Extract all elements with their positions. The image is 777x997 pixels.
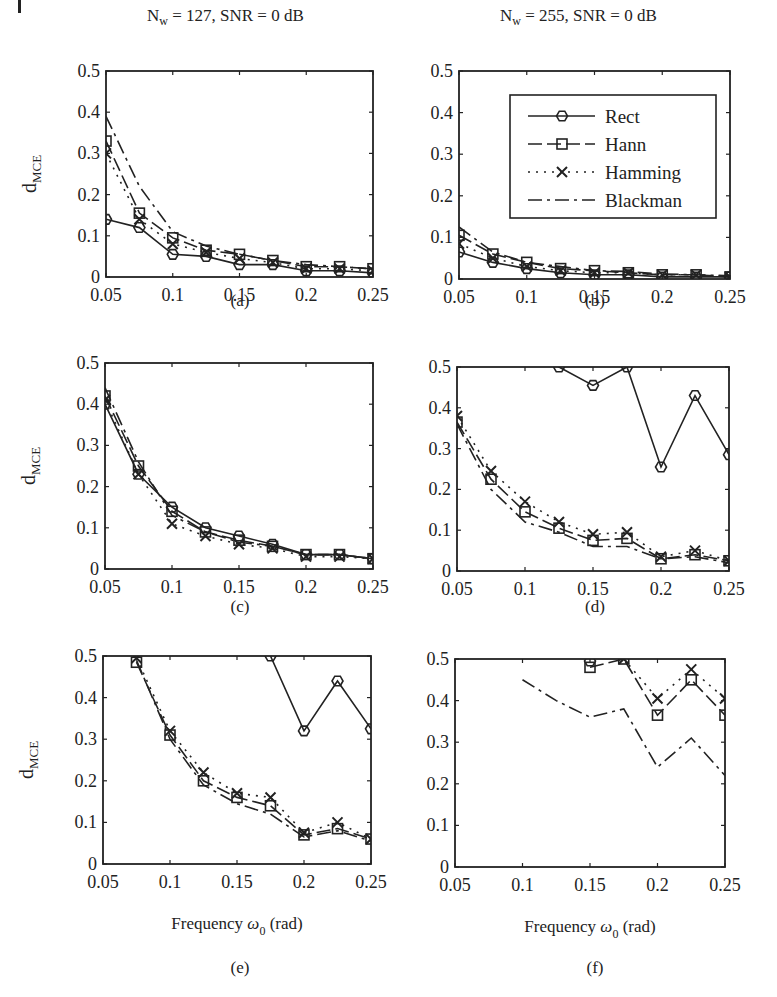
y-tick-label: 0.5 [431,61,454,81]
series-line-hamming [457,416,729,561]
series-line-hann [105,396,373,559]
x-tick-label: 0.2 [295,285,318,305]
y-tick-label: 0.2 [78,185,101,205]
y-tick-label: 0.2 [429,479,452,499]
y-tick-label: 0.5 [77,353,100,373]
x-tick-label: 0.2 [295,577,318,597]
x-marker [168,239,178,249]
y-tick-label: 0.3 [427,732,450,752]
panel-c: 0.050.10.150.20.2500.10.20.30.40.5dMCE [17,353,389,597]
x-tick-label: 0.25 [357,577,389,597]
x-tick-label: 0.2 [651,287,674,307]
series-line-hann [457,422,729,561]
y-tick-label: 0.1 [429,520,452,540]
series-line-rect [106,219,373,273]
y-tick-label: 0 [91,267,100,287]
series-line-hann [137,662,372,839]
y-axis-label: dMCE [18,155,44,193]
series-line-hamming [624,659,725,699]
y-tick-label: 0.5 [429,357,452,377]
x-tick-label: 0.15 [223,577,255,597]
y-tick-label: 0.5 [78,61,101,81]
x-tick-label: 0.1 [514,579,537,599]
x-tick-label: 0.1 [161,577,184,597]
y-tick-label: 0.2 [75,771,98,791]
panel-f: 0.050.10.150.20.2500.10.20.30.40.5Freque… [427,649,741,941]
x-tick-label: 0.1 [159,872,182,892]
panel-e: 0.050.10.150.20.2500.10.20.30.40.5dMCEFr… [15,646,387,938]
x-marker [520,497,530,507]
x-marker [333,817,343,827]
series-line-blackman [523,680,726,776]
y-tick-label: 0.4 [427,691,450,711]
y-tick-label: 0.2 [427,774,450,794]
caption-b: (b) [565,291,625,311]
x-tick-label: 0.25 [355,872,387,892]
series-line-hamming [106,153,373,270]
caption-c: (c) [210,597,270,617]
x-marker [686,664,696,674]
y-tick-label: 0 [440,857,449,877]
y-tick-label: 0.3 [431,144,454,164]
legend-label: Blackman [605,190,683,211]
x-tick-label: 0.05 [90,285,122,305]
y-tick-label: 0.1 [78,226,101,246]
y-tick-label: 0 [444,269,453,289]
y-tick-label: 0.5 [427,649,450,669]
y-tick-label: 0 [90,559,99,579]
x-axis-label: Frequency ω0 (rad) [171,914,302,938]
x-marker [588,529,598,539]
y-tick-label: 0 [442,561,451,581]
legend-label: Rect [605,106,641,127]
y-tick-label: 0.4 [431,103,454,123]
x-tick-label: 0.25 [357,285,389,305]
series-line-rect [525,347,729,467]
axes-frame [103,656,371,864]
x-tick-label: 0.05 [87,872,119,892]
x-tick-label: 0.15 [221,872,253,892]
y-tick-label: 0.5 [75,646,98,666]
x-marker [653,694,663,704]
y-tick-label: 0.3 [78,143,101,163]
y-axis-label: dMCE [15,741,41,779]
series-line-rect [271,656,372,731]
caption-a: (a) [210,291,270,311]
y-tick-label: 0.4 [78,102,101,122]
x-tick-label: 0.1 [162,285,185,305]
y-tick-label: 0.1 [427,815,450,835]
panel-a: 0.050.10.150.20.2500.10.20.30.40.5dMCE [18,61,389,305]
x-tick-label: 0.25 [713,579,745,599]
y-tick-label: 0.4 [77,394,100,414]
series-line-blackman [137,660,372,841]
x-tick-label: 0.2 [293,872,316,892]
axes-frame [455,659,725,867]
legend: RectHannHammingBlackman [510,95,716,218]
caption-d: (d) [565,597,625,617]
series-line-hann [590,659,725,715]
x-tick-label: 0.2 [646,875,669,895]
x-axis-label: Frequency ω0 (rad) [524,917,655,941]
x-tick-label: 0.1 [516,287,539,307]
axes-frame [457,367,729,571]
y-tick-label: 0 [88,854,97,874]
figure-canvas: 0.050.10.150.20.2500.10.20.30.40.5dMCE0.… [0,0,777,997]
x-tick-label: 0.15 [577,579,609,599]
y-axis-label: dMCE [17,447,43,485]
x-tick-label: 0.25 [709,875,741,895]
x-tick-label: 0.1 [511,875,534,895]
series-line-blackman [105,388,373,559]
series-line-blackman [459,227,730,276]
x-tick-label: 0.15 [574,875,606,895]
panel-d: 0.050.10.150.20.2500.10.20.30.40.5 [429,347,745,599]
y-tick-label: 0.1 [77,518,100,538]
caption-e: (e) [210,958,270,978]
x-tick-label: 0.2 [650,579,673,599]
x-marker [167,519,177,529]
legend-label: Hamming [605,162,681,183]
series-line-blackman [106,116,373,268]
x-tick-label: 0.25 [714,287,746,307]
x-tick-label: 0.05 [443,287,475,307]
y-tick-label: 0.4 [75,688,98,708]
y-tick-label: 0.3 [429,439,452,459]
panel-b: 0.050.10.150.20.2500.10.20.30.40.5RectHa… [431,61,746,307]
